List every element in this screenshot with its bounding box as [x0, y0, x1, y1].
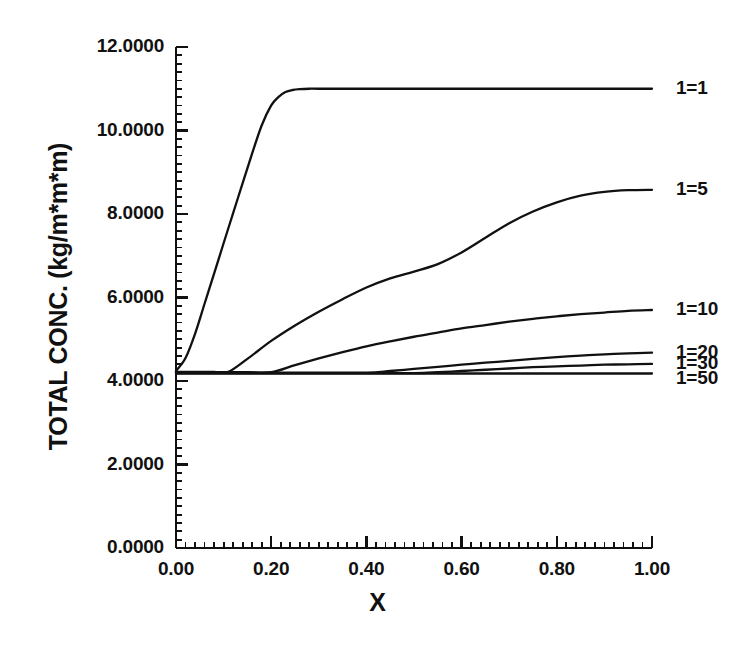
y-tick-label: 0.0000 [107, 536, 164, 558]
x-tick-label: 0.60 [417, 558, 507, 580]
series-label-11: 1=1 [676, 77, 708, 99]
x-axis-title: X [0, 588, 755, 617]
series-line-120 [176, 353, 652, 373]
x-tick-label: 0.00 [131, 558, 221, 580]
series-line-15 [176, 190, 652, 373]
series-group [176, 89, 652, 374]
y-tick-label: 2.0000 [107, 453, 164, 475]
series-line-11 [176, 89, 652, 371]
x-tick-label: 0.80 [512, 558, 602, 580]
x-tick-label: 0.40 [321, 558, 411, 580]
axes-group [176, 47, 652, 548]
chart-figure: 0.00002.00004.00006.00008.000010.000012.… [0, 0, 755, 645]
y-tick-label: 10.0000 [97, 119, 164, 141]
y-axis-title: TOTAL CONC. (kg/m*m*m) [44, 67, 73, 527]
x-tick-label: 0.20 [226, 558, 316, 580]
y-tick-label: 4.0000 [107, 369, 164, 391]
y-tick-label: 12.0000 [97, 35, 164, 57]
y-tick-label: 8.0000 [107, 202, 164, 224]
series-label-150: 1=50 [676, 367, 718, 389]
series-label-110: 1=10 [676, 298, 718, 320]
y-tick-label: 6.0000 [107, 286, 164, 308]
series-label-15: 1=5 [676, 178, 708, 200]
x-tick-label: 1.00 [607, 558, 697, 580]
y-axis-title-text: TOTAL CONC. (kg/m*m*m) [44, 143, 72, 450]
series-line-110 [176, 310, 652, 373]
